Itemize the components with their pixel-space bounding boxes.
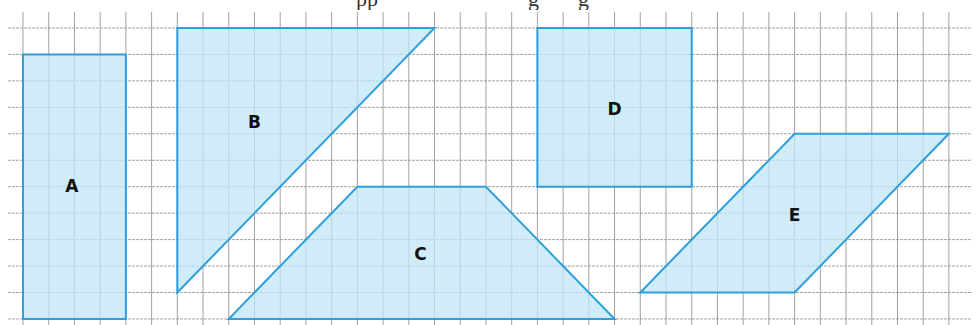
grid-figure: ABCDE bbox=[0, 0, 978, 325]
shape-label-a: A bbox=[65, 176, 79, 196]
shape-label-c: C bbox=[414, 244, 426, 264]
shape-label-d: D bbox=[607, 99, 621, 119]
shape-label-b: B bbox=[248, 112, 261, 132]
shape-label-e: E bbox=[789, 205, 801, 225]
